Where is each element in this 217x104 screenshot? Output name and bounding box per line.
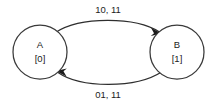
node-a-sublabel: [0] bbox=[35, 53, 46, 64]
edge-b-to-a[interactable] bbox=[56, 69, 162, 85]
node-b-sublabel: [1] bbox=[172, 53, 183, 64]
node-a-label: A bbox=[37, 39, 44, 50]
node-b-label: B bbox=[174, 39, 180, 50]
edge-b-to-a-path bbox=[58, 72, 162, 84]
edge-b-to-a-label: 01, 11 bbox=[95, 89, 121, 100]
edge-a-to-b-path bbox=[56, 20, 160, 32]
edge-a-to-b-label: 10, 11 bbox=[95, 4, 121, 15]
diagram-canvas: A [0] B [1] 10, 11 01, 11 bbox=[0, 0, 217, 104]
node-b[interactable]: B [1] bbox=[150, 25, 204, 79]
state-diagram: A [0] B [1] 10, 11 01, 11 bbox=[0, 0, 217, 104]
node-a[interactable]: A [0] bbox=[13, 25, 67, 79]
edge-a-to-b[interactable] bbox=[56, 20, 162, 36]
